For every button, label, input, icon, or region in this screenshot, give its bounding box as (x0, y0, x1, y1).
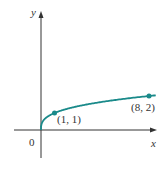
origin-label: 0 (29, 136, 35, 148)
y-axis-arrow-icon (39, 11, 44, 18)
point-1-label: (1, 1) (57, 113, 81, 125)
x-axis-arrow-icon (150, 128, 157, 133)
point-8-2 (147, 94, 152, 99)
y-axis-label: y (31, 6, 36, 18)
x-axis-label: x (151, 137, 156, 149)
point-2-label: (8, 2) (131, 101, 155, 113)
graph (0, 0, 164, 172)
